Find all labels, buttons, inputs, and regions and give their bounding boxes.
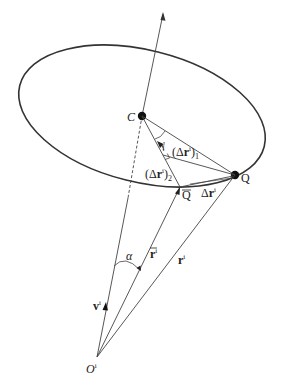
label-q: Q — [241, 171, 250, 185]
r-bar-vector — [97, 187, 180, 357]
label-delta-r1: (Δri)1 — [172, 145, 199, 161]
label-delta-r: Δri — [201, 186, 216, 200]
orbit-vector-diagram: C Q Q γ (Δri)1 (Δri)2 Δri α ri ri vi Oi — [0, 0, 282, 389]
svg-text:ri: ri — [150, 247, 157, 261]
svg-text:(Δri)2: (Δri)2 — [145, 167, 172, 183]
label-delta-r2: (Δri)2 — [145, 167, 172, 183]
svg-text:Oi: Oi — [86, 362, 97, 376]
velocity-line — [97, 198, 128, 357]
label-o: Oi — [86, 362, 97, 376]
svg-text:ri: ri — [178, 253, 185, 267]
r-bar-arrow-icon — [175, 187, 180, 195]
alpha-arrow-icon — [137, 266, 142, 272]
label-alpha: α — [126, 249, 133, 263]
label-c: C — [127, 110, 136, 124]
label-qbar: Q — [182, 188, 191, 202]
axis-line-solid-upper — [142, 14, 163, 116]
label-v: vi — [93, 299, 101, 313]
label-gamma: γ — [158, 137, 167, 152]
svg-text:Δri: Δri — [201, 186, 216, 200]
axis-arrow-icon — [161, 12, 166, 21]
svg-text:vi: vi — [93, 299, 101, 313]
label-r: ri — [178, 253, 185, 267]
axis-line-dashed — [128, 116, 142, 198]
svg-text:(Δri)1: (Δri)1 — [172, 145, 199, 161]
label-r-bar: ri — [150, 247, 157, 261]
r-vector — [97, 175, 235, 357]
